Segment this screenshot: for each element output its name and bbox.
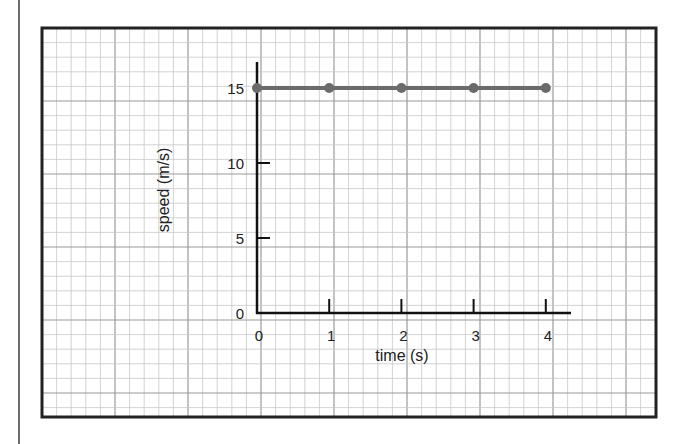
speed-time-chart: 01234 051015 time (s) speed (m/s) <box>0 0 700 444</box>
data-point <box>541 83 551 93</box>
x-tick-label: 0 <box>255 327 263 344</box>
data-point <box>469 83 479 93</box>
x-tick-label: 2 <box>399 327 407 344</box>
x-axis-title: time (s) <box>375 347 428 364</box>
data-point <box>396 83 406 93</box>
y-tick-label: 0 <box>236 305 244 322</box>
x-tick-label: 3 <box>471 327 479 344</box>
data-point <box>252 83 262 93</box>
x-tick-label: 1 <box>327 327 335 344</box>
x-tick-label: 4 <box>544 327 552 344</box>
y-tick-label: 15 <box>227 80 244 97</box>
y-tick-label: 10 <box>227 155 244 172</box>
y-axis-title: speed (m/s) <box>155 148 172 232</box>
y-tick-label: 5 <box>236 230 244 247</box>
y-ticks: 051015 <box>227 80 270 322</box>
data-point <box>324 83 334 93</box>
series-speed <box>252 83 551 93</box>
